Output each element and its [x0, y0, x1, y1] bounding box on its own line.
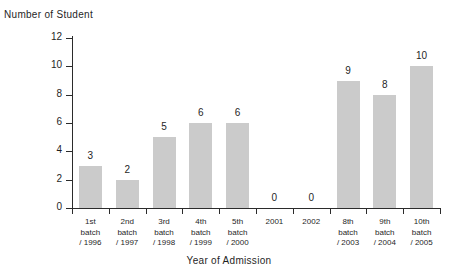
- category-label-line: 9th: [366, 217, 404, 228]
- x-tick: [72, 208, 73, 214]
- x-tick: [146, 208, 147, 214]
- category-label-line: / 2000: [219, 238, 257, 249]
- category-label: 9thbatch/ 2004: [366, 217, 404, 249]
- category-label-line: / 1999: [182, 238, 220, 249]
- category-label-line: 2002: [292, 217, 330, 228]
- category-label-line: / 2003: [329, 238, 367, 249]
- bar-value-label: 10: [404, 50, 440, 61]
- x-tick: [182, 208, 183, 214]
- y-tick: [66, 123, 73, 124]
- bar[interactable]: [337, 81, 360, 209]
- bar-value-label: 6: [183, 107, 219, 118]
- x-tick: [256, 208, 257, 214]
- category-label-line: / 2005: [403, 238, 441, 249]
- category-label-line: / 1998: [145, 238, 183, 249]
- x-tick: [219, 208, 220, 214]
- category-label-line: batch: [403, 228, 441, 239]
- category-label-line: 2nd: [108, 217, 146, 228]
- x-tick: [366, 208, 367, 214]
- category-label-line: batch: [219, 228, 257, 239]
- y-tick: [66, 38, 73, 39]
- bar[interactable]: [373, 95, 396, 208]
- bar-value-label: 5: [146, 121, 182, 132]
- category-label-line: batch: [329, 228, 367, 239]
- y-tick-label: 12: [36, 31, 62, 42]
- category-label: 3rdbatch/ 1998: [145, 217, 183, 249]
- category-label: 8thbatch/ 2003: [329, 217, 367, 249]
- x-tick: [440, 208, 441, 214]
- category-label-line: / 1996: [71, 238, 109, 249]
- bar-value-label: 2: [109, 164, 145, 175]
- y-tick-label: 0: [36, 201, 62, 212]
- y-tick: [66, 180, 73, 181]
- category-label-line: 8th: [329, 217, 367, 228]
- y-tick-label: 10: [36, 59, 62, 70]
- bar-value-label: 9: [330, 65, 366, 76]
- category-label: 2002: [292, 217, 330, 228]
- y-tick-label: 4: [36, 144, 62, 155]
- category-label-line: 4th: [182, 217, 220, 228]
- y-tick: [66, 95, 73, 96]
- bar-value-label: 0: [293, 192, 329, 203]
- category-label-line: batch: [108, 228, 146, 239]
- bar[interactable]: [226, 123, 249, 208]
- category-label: 2001: [255, 217, 293, 228]
- category-label-line: 2001: [255, 217, 293, 228]
- y-axis-title: Number of Student: [4, 9, 93, 20]
- category-label-line: / 1997: [108, 238, 146, 249]
- bar[interactable]: [189, 123, 212, 208]
- bar-value-label: 3: [72, 150, 108, 161]
- bar[interactable]: [410, 66, 433, 208]
- category-label-line: / 2004: [366, 238, 404, 249]
- category-label-line: 10th: [403, 217, 441, 228]
- y-tick-label: 8: [36, 88, 62, 99]
- category-label-line: batch: [71, 228, 109, 239]
- bar-value-label: 8: [367, 79, 403, 90]
- category-label: 1stbatch/ 1996: [71, 217, 109, 249]
- y-tick-label: 6: [36, 116, 62, 127]
- y-tick-label: 2: [36, 173, 62, 184]
- category-label-line: 1st: [71, 217, 109, 228]
- category-label: 10thbatch/ 2005: [403, 217, 441, 249]
- category-label-line: 5th: [219, 217, 257, 228]
- x-tick: [293, 208, 294, 214]
- x-tick: [330, 208, 331, 214]
- category-label: 4thbatch/ 1999: [182, 217, 220, 249]
- category-label-line: batch: [366, 228, 404, 239]
- category-label-line: 3rd: [145, 217, 183, 228]
- category-label: 5thbatch/ 2000: [219, 217, 257, 249]
- bar-value-label: 6: [220, 107, 256, 118]
- x-axis-title: Year of Admission: [0, 255, 458, 266]
- category-label: 2ndbatch/ 1997: [108, 217, 146, 249]
- bar[interactable]: [153, 137, 176, 208]
- x-tick: [403, 208, 404, 214]
- bar-value-label: 0: [256, 192, 292, 203]
- y-tick: [66, 66, 73, 67]
- bar[interactable]: [79, 166, 102, 209]
- category-label-line: batch: [182, 228, 220, 239]
- x-tick: [109, 208, 110, 214]
- category-label-line: batch: [145, 228, 183, 239]
- bar[interactable]: [116, 180, 139, 208]
- bar-chart: Number of Student 024681012 32566009810 …: [0, 0, 458, 275]
